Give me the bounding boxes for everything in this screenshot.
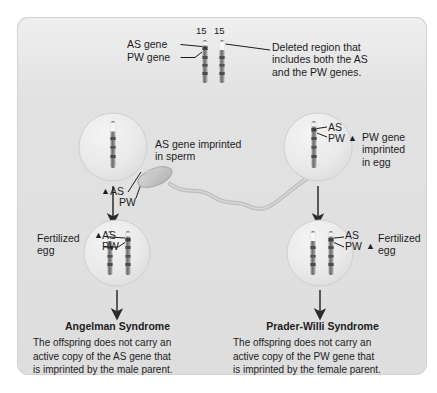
label-as-gene: AS gene — [127, 38, 167, 50]
marker-triangle-right-gamete: ▲ — [348, 133, 357, 144]
label-zygote-right-pw: PW — [345, 240, 362, 252]
outcome-right-title: Prader-Willi Syndrome — [235, 320, 410, 332]
outcome-right-text: The offspring does not carry an active c… — [233, 336, 415, 377]
callout-pw-imprinted-egg: PW gene imprinted in egg — [362, 131, 405, 168]
marker-triangle-left-gamete: ▲ — [101, 186, 110, 197]
label-fertilized-egg-right: Fertilized egg — [378, 232, 421, 257]
callout-deleted-region: Deleted region that includes both the AS… — [272, 41, 368, 78]
outcome-left-text: The offspring does not carry an active c… — [33, 336, 205, 377]
label-fertilized-egg-left: Fertilized egg — [37, 232, 80, 257]
chromosome-number-right: 15 — [214, 25, 225, 36]
chromosome-number-left: 15 — [196, 25, 207, 36]
figure-root: 15 15 AS gene PW gene Deleted region tha… — [0, 0, 437, 393]
label-pw-gene: PW gene — [127, 51, 170, 63]
label-zygote-left-pw: PW — [102, 240, 119, 252]
label-gamete-left-pw: PW — [119, 196, 136, 208]
callout-as-imprinted-sperm: AS gene imprinted in sperm — [155, 138, 241, 163]
marker-triangle-zygote-right: ▲ — [366, 241, 375, 252]
outcome-left-title: Angelman Syndrome — [35, 320, 200, 332]
label-gamete-right-pw: PW — [328, 132, 345, 144]
